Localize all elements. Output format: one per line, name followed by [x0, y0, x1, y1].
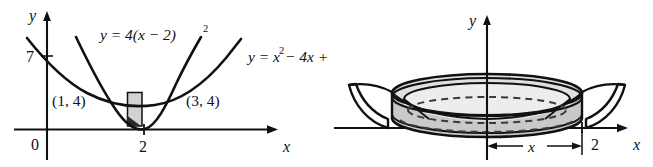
point-label-right-intersection: (3, 4)	[186, 92, 220, 110]
x-tick-label-2: 2	[139, 138, 147, 155]
y-axis-label-right: y	[467, 12, 477, 30]
label-outer-parabola-exponent: 2	[279, 45, 284, 56]
right-panel-solid: x y x 2	[330, 0, 653, 167]
label-inner-parabola-exponent: 2	[203, 23, 208, 34]
wing-right	[582, 84, 625, 128]
y-axis-label: y	[27, 7, 37, 25]
shaded-strip	[128, 93, 143, 127]
label-inner-parabola-text: y = 4(x − 2)	[98, 26, 176, 44]
origin-label: 0	[31, 136, 39, 153]
x-tick-label-2-right: 2	[591, 136, 599, 153]
point-label-left-intersection: (1, 4)	[52, 92, 86, 110]
label-inner-parabola: y = 4(x − 2) 2	[98, 23, 208, 44]
label-outer-parabola: y = x 2 − 4x + 7	[246, 45, 330, 65]
y-axis	[43, 11, 51, 160]
right-solid-svg: x y x 2	[330, 0, 653, 167]
y-intercept-label: 7	[26, 48, 34, 65]
label-outer-parabola-lead: y = x	[246, 48, 280, 65]
radius-dimension-label: x	[527, 138, 535, 155]
math-figure: y x 0 7 2 y = 4(x − 2) 2 y = x 2 − 4x + …	[0, 0, 653, 167]
left-graph-svg: y x 0 7 2 y = 4(x − 2) 2 y = x 2 − 4x + …	[0, 0, 330, 167]
label-outer-parabola-tail: − 4x + 7	[285, 48, 330, 65]
wing-left	[349, 84, 392, 128]
x-axis-label-right: x	[632, 136, 640, 153]
x-axis-label: x	[282, 138, 290, 155]
left-panel-graph: y x 0 7 2 y = 4(x − 2) 2 y = x 2 − 4x + …	[0, 0, 330, 167]
